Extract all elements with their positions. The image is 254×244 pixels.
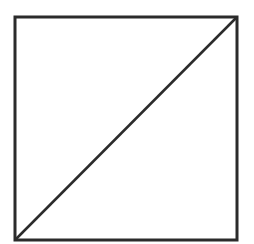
diagonal-line <box>15 17 237 240</box>
diagram-canvas <box>0 0 254 244</box>
